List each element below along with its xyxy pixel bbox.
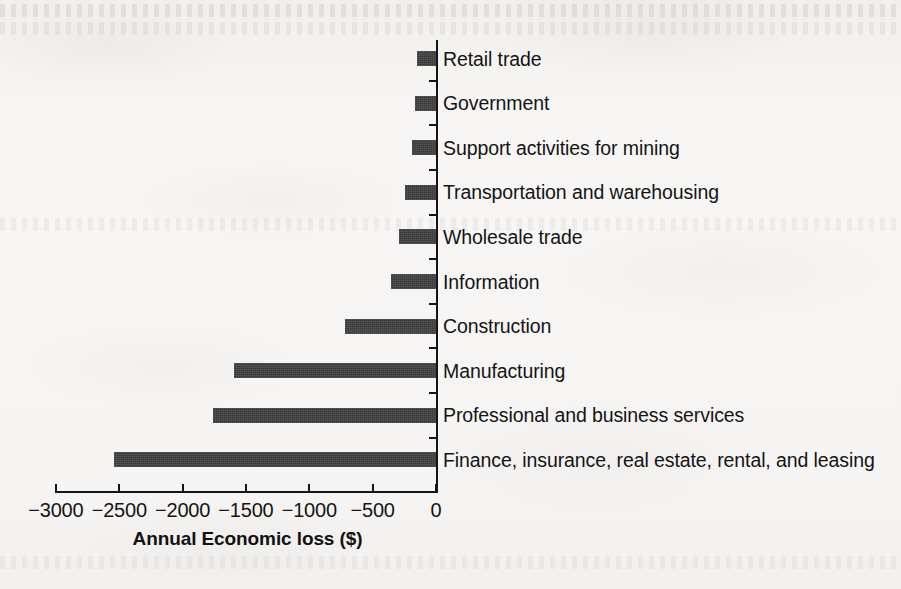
x-axis-tick bbox=[245, 484, 247, 493]
y-axis-tick bbox=[429, 347, 436, 349]
category-axis-line bbox=[57, 491, 438, 493]
x-axis-tick-label: −2000 bbox=[155, 499, 210, 522]
x-axis-tick bbox=[308, 484, 310, 493]
x-axis-tick-label: −3000 bbox=[28, 499, 83, 522]
bar bbox=[415, 96, 436, 111]
value-axis-line bbox=[436, 40, 438, 492]
y-axis-tick bbox=[429, 80, 436, 82]
bar bbox=[234, 363, 436, 378]
bar bbox=[412, 140, 436, 155]
bar bbox=[114, 452, 436, 467]
plot-area: Annual Economic loss ($) −3000−2500−2000… bbox=[0, 0, 901, 589]
bar-category-label: Retail trade bbox=[443, 50, 542, 70]
y-axis-tick bbox=[429, 169, 436, 171]
x-axis-tick-label: −1000 bbox=[282, 499, 337, 522]
x-axis-tick-label: 0 bbox=[431, 499, 442, 522]
bar bbox=[399, 229, 436, 244]
bar bbox=[345, 319, 436, 334]
x-axis-tick bbox=[55, 484, 57, 493]
y-axis-tick bbox=[429, 303, 436, 305]
bar-category-label: Professional and business services bbox=[443, 406, 744, 426]
y-axis-tick bbox=[429, 214, 436, 216]
horizontal-bar-chart: Annual Economic loss ($) −3000−2500−2000… bbox=[0, 0, 901, 589]
y-axis-tick bbox=[429, 392, 436, 394]
x-axis-tick bbox=[118, 484, 120, 493]
y-axis-tick bbox=[429, 124, 436, 126]
bar-category-label: Transportation and warehousing bbox=[443, 183, 719, 203]
x-axis-tick-label: −500 bbox=[351, 499, 395, 522]
bar bbox=[405, 185, 436, 200]
x-axis-tick bbox=[372, 484, 374, 493]
bar bbox=[391, 274, 436, 289]
bar bbox=[213, 408, 436, 423]
x-axis-tick bbox=[182, 484, 184, 493]
bar-category-label: Construction bbox=[443, 317, 551, 337]
y-axis-tick bbox=[429, 437, 436, 439]
bar-category-label: Manufacturing bbox=[443, 362, 565, 382]
y-axis-tick bbox=[429, 258, 436, 260]
x-axis-title: Annual Economic loss ($) bbox=[57, 528, 438, 550]
bar-category-label: Support activities for mining bbox=[443, 139, 680, 159]
bar-category-label: Information bbox=[443, 273, 539, 293]
x-axis-tick-label: −2500 bbox=[92, 499, 147, 522]
bar bbox=[417, 51, 436, 66]
bar-category-label: Wholesale trade bbox=[443, 228, 582, 248]
bar-category-label: Finance, insurance, real estate, rental,… bbox=[443, 451, 875, 471]
x-axis-tick bbox=[435, 484, 437, 493]
x-axis-tick-label: −1500 bbox=[218, 499, 273, 522]
bar-category-label: Government bbox=[443, 94, 549, 114]
